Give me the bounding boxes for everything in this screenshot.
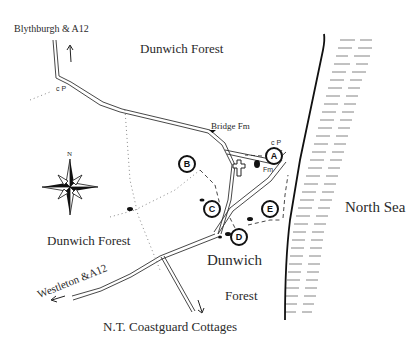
arrow-left-icon [51, 296, 65, 302]
label-compass-north: N [67, 151, 72, 158]
walking-route-map: Blythburgh & A12 Dunwich Forest c P Brid… [0, 0, 414, 355]
label-dunwich-forest-north: Dunwich Forest [140, 42, 223, 55]
label-north-sea: North Sea [345, 200, 405, 215]
label-coastguard-cottages: N.T. Coastguard Cottages [103, 320, 237, 333]
label-dunwich: Dunwich [207, 253, 262, 268]
waypoint-d: D [230, 228, 248, 246]
compass-rose-icon [42, 159, 98, 215]
label-forest-south: Forest [225, 289, 258, 302]
label-car-park-a: c P [271, 139, 281, 146]
church-cross-icon [233, 160, 245, 176]
road-coastguard [161, 256, 195, 312]
arrow-up-icon [67, 45, 73, 62]
arrow-down-icon [198, 300, 204, 313]
label-blythburgh: Blythburgh & A12 [14, 24, 89, 34]
label-bridge-farm: Bridge Fm [211, 122, 250, 131]
waypoint-b: B [178, 155, 196, 173]
label-car-park-north: c P [56, 85, 66, 92]
label-dunwich-forest-west: Dunwich Forest [47, 234, 130, 247]
waypoint-e: E [261, 200, 279, 218]
coastline [285, 34, 324, 320]
waypoint-a: A [265, 147, 283, 165]
label-fm-small: Fm [263, 166, 273, 173]
waypoint-c: C [203, 200, 221, 218]
road-to-dunwich [214, 160, 286, 234]
